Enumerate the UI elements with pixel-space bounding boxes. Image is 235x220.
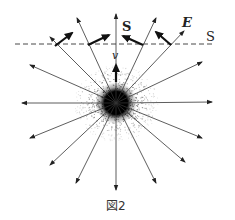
poynting-vector-label: S xyxy=(122,20,131,33)
radiation-diagram xyxy=(0,0,235,220)
electric-field-label: E xyxy=(182,16,192,29)
figure-caption: 図2 xyxy=(106,200,126,212)
velocity-label: v xyxy=(112,50,118,61)
surface-label: S xyxy=(206,30,215,43)
radial-field-arrows xyxy=(22,14,212,190)
field-line-arrow xyxy=(116,103,202,138)
poynting-arrow xyxy=(88,35,109,45)
field-line-arrow xyxy=(116,31,184,103)
field-line-arrow xyxy=(76,103,116,183)
poynting-arrow xyxy=(123,36,143,45)
field-line-arrow xyxy=(50,103,116,165)
field-line-arrow xyxy=(77,18,116,103)
field-line-arrow xyxy=(30,65,116,103)
field-line-arrow xyxy=(116,62,202,103)
field-line-arrow xyxy=(50,37,116,103)
poynting-arrow xyxy=(156,32,171,45)
